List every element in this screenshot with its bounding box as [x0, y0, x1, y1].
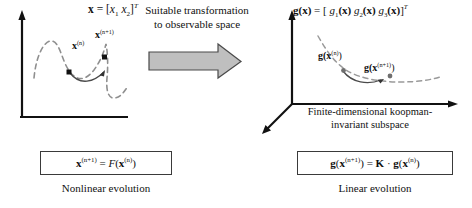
right-label-gxn: g(x(n)) — [318, 50, 342, 61]
nonlinear-caption: Nonlinear evolution — [28, 182, 184, 194]
subspace-caption-line2: invariant subspace — [282, 119, 458, 132]
obs-g2-arg: (x) — [363, 4, 376, 16]
ln-dot: · — [387, 157, 391, 169]
linear-equation: g(x(n+1)) = K · g(x(n)) — [330, 157, 419, 169]
right-label-gxn-tail: ) — [339, 50, 342, 61]
figure-canvas: x = [x1 x2]T x(n) x(n+1) Suitable transf… — [0, 0, 472, 208]
ln-lhs-close: ) — [360, 157, 364, 169]
nonlinear-equation: x(n+1) = F(x(n)) — [76, 157, 136, 169]
linear-caption: Linear evolution — [314, 182, 436, 194]
obs-open: [ — [323, 4, 327, 16]
right-label-gxn-base: g(x — [318, 50, 331, 61]
linear-equation-box: g(x(n+1)) = K · g(x(n)) — [297, 151, 453, 175]
right-point-gxn — [341, 68, 346, 73]
observable-vector-formula: g(x) = [ g1(x) g2(x) g3(x)]T — [293, 4, 408, 16]
right-point-gxn1 — [388, 74, 393, 79]
right-label-gxn-sup: (n) — [331, 49, 338, 56]
right-label-gxn1: g(x(n+1)) — [364, 62, 395, 73]
obs-transpose: T — [404, 3, 408, 10]
right-label-gxn1-base: g(x — [364, 62, 377, 73]
nl-eq: = — [99, 157, 105, 169]
obs-g1-arg: (x) — [338, 4, 351, 16]
ln-rhs-sup: (n) — [408, 156, 416, 163]
subspace-caption-line1: Finite-dimensional koopman- — [282, 106, 458, 119]
obs-g3-arg: (x) — [387, 4, 400, 16]
ln-rhs-close: ) — [416, 157, 420, 169]
subspace-caption: Finite-dimensional koopman- invariant su… — [282, 106, 458, 131]
obs-eq: = — [314, 4, 320, 16]
ln-lhs-sup: (n+1) — [345, 156, 360, 163]
nl-close: ) — [132, 157, 136, 169]
right-label-gxn1-sup: (n+1) — [377, 61, 391, 68]
nl-lhs-sup: (n+1) — [82, 156, 97, 163]
right-label-gxn1-tail: ) — [391, 62, 394, 73]
ln-eq: = — [367, 157, 373, 169]
nonlinear-equation-box: x(n+1) = F(x(n)) — [40, 151, 172, 175]
ln-operator: K — [376, 157, 385, 169]
right-panel-graphics — [0, 0, 472, 208]
obs-lhs-arg: (x) — [299, 4, 312, 16]
